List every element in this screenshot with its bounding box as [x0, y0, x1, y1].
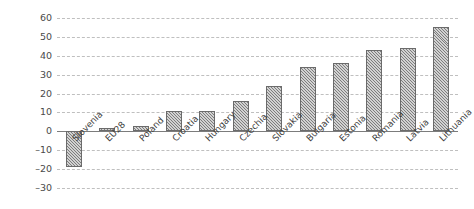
- bar-slot: [191, 0, 224, 209]
- y-axis-tick-label: 60: [18, 13, 52, 23]
- bar: [300, 67, 316, 131]
- bar-slot: [291, 0, 324, 209]
- bar-slot: [358, 0, 391, 209]
- bar-slot: [57, 0, 90, 209]
- bar: [433, 27, 449, 131]
- bar-slot: [425, 0, 458, 209]
- bar-slot: [224, 0, 257, 209]
- bar: [266, 86, 282, 131]
- bar: [333, 63, 349, 131]
- y-axis-tick-label: 50: [18, 32, 52, 42]
- bar-slot: [124, 0, 157, 209]
- y-axis-tick-label: 30: [18, 70, 52, 80]
- y-axis-tick-label: 10: [18, 107, 52, 117]
- bar-slot: [90, 0, 123, 209]
- y-axis-tick-label: –30: [18, 183, 52, 193]
- bar-slot: [391, 0, 424, 209]
- y-axis-tick-label: 20: [18, 89, 52, 99]
- y-axis-tick-label: 40: [18, 51, 52, 61]
- bar-slot: [324, 0, 357, 209]
- bar: [366, 50, 382, 131]
- y-axis-tick-label: –10: [18, 145, 52, 155]
- bar-slot: [157, 0, 190, 209]
- bar-slot: [258, 0, 291, 209]
- bar: [400, 48, 416, 131]
- y-axis-tick-label: 0: [18, 126, 52, 136]
- bar-group: [57, 0, 458, 209]
- y-axis-tick-label: –20: [18, 164, 52, 174]
